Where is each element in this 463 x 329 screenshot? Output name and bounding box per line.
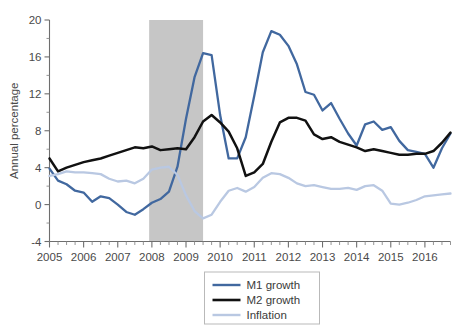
x-tick-label: 2014 [344,251,370,263]
x-tick-label: 2009 [173,251,199,263]
line-chart: -404812162020052006200720082009201020112… [0,0,463,329]
y-tick-label: 4 [35,162,42,174]
x-tick-label: 2013 [310,251,336,263]
x-tick-label: 2008 [139,251,165,263]
x-tick-label: 2007 [105,251,131,263]
chart-legend: M1 growthM2 growthInflation [205,272,320,324]
y-axis-title: Annual percentage [8,82,20,179]
y-tick-label: 8 [35,125,41,137]
series-line-m1-growth [50,31,451,215]
y-tick-label: 20 [29,14,42,26]
y-tick-label: -4 [31,236,42,248]
series-line-m2-growth [50,115,451,176]
y-tick-label: 12 [29,88,42,100]
x-tick-label: 2011 [242,251,267,263]
x-tick-label: 2010 [207,251,233,263]
recession-band [149,20,203,242]
y-tick-label: 0 [35,199,41,211]
x-tick-label: 2005 [37,251,63,263]
recession-shading [149,20,203,242]
legend-label: Inflation [247,309,287,321]
chart-container: -404812162020052006200720082009201020112… [0,0,463,329]
y-axis-title-text: Annual percentage [8,82,20,179]
x-tick-label: 2012 [276,251,302,263]
x-tick-label: 2016 [412,251,438,263]
legend-label: M1 growth [247,279,301,291]
legend-label: M2 growth [247,294,301,306]
x-tick-label: 2015 [378,251,404,263]
x-tick-label: 2006 [71,251,97,263]
chart-series [50,31,451,218]
y-tick-label: 16 [29,51,42,63]
